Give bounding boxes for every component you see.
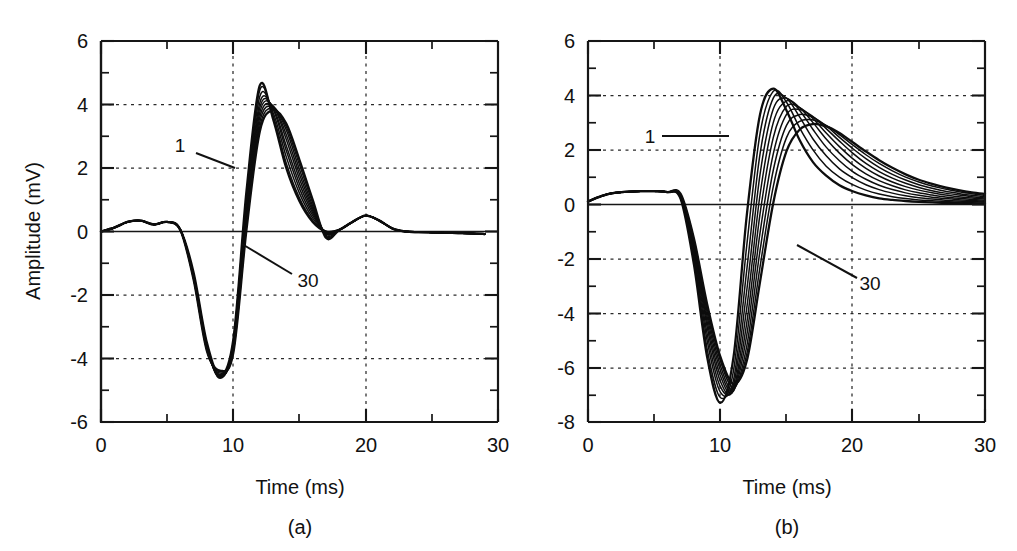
panel-a-trace-group: [101, 83, 485, 378]
panel-a-xlabel: Time (ms): [255, 476, 344, 498]
panel-a-ytick-neg2: -2: [70, 284, 88, 306]
waveform-trace: [588, 114, 985, 390]
panel-a-xtick-10: 10: [222, 434, 244, 456]
figure-container: 6 4 2 0 -2 -4 -6 0 10 20 30 Time (ms) Am…: [0, 0, 1017, 551]
panel-b-ytick-6: 6: [564, 30, 575, 52]
waveform-trace: [588, 124, 985, 384]
panel-b-ytick-neg2: -2: [557, 248, 575, 270]
waveform-trace: [101, 91, 485, 378]
panel-a-ytick-neg4: -4: [70, 348, 88, 370]
panel-b-label-last: 30: [859, 273, 880, 294]
panel-b-xtick-30: 30: [974, 434, 996, 456]
panel-b-xtick-10: 10: [709, 434, 731, 456]
panel-a-leader-first: [196, 153, 235, 168]
panel-a-xtick-20: 20: [355, 434, 377, 456]
panel-b-xlabel: Time (ms): [742, 476, 831, 498]
panel-b-ytick-2: 2: [564, 139, 575, 161]
panel-a-caption: (a): [288, 516, 312, 538]
panel-a-ytick-neg6: -6: [70, 411, 88, 433]
panel-b-caption: (b): [775, 516, 799, 538]
panel-a: 6 4 2 0 -2 -4 -6 0 10 20 30 Time (ms) Am…: [0, 0, 510, 551]
panel-b-xtick-20: 20: [841, 434, 863, 456]
panel-a-label-last: 30: [297, 270, 318, 291]
panel-a-ytick-4: 4: [77, 94, 88, 116]
panel-b-ytick-0: 0: [564, 194, 575, 216]
panel-a-xtick-30: 30: [487, 434, 509, 456]
panel-b-xtick-0: 0: [582, 434, 593, 456]
panel-a-ytick-0: 0: [77, 221, 88, 243]
waveform-trace: [588, 119, 985, 387]
waveform-trace: [101, 83, 485, 376]
panel-a-ylabel: Amplitude (mV): [22, 162, 44, 300]
panel-a-ytick-2: 2: [77, 157, 88, 179]
panel-b-ytick-neg8: -8: [557, 411, 575, 433]
panel-b-leader-last: [797, 245, 857, 278]
panel-b: 6 4 2 0 -2 -4 -6 -8 0 10 20 30 Time (ms)…: [507, 0, 1017, 551]
panel-b-ytick-neg4: -4: [557, 303, 575, 325]
panel-a-xtick-0: 0: [95, 434, 106, 456]
panel-a-ytick-6: 6: [77, 30, 88, 52]
panel-a-plot: 6 4 2 0 -2 -4 -6 0 10 20 30 Time (ms) Am…: [0, 0, 510, 551]
waveform-trace: [588, 104, 985, 394]
panel-a-label-first: 1: [175, 135, 186, 156]
panel-b-plot: 6 4 2 0 -2 -4 -6 -8 0 10 20 30 Time (ms)…: [507, 0, 1017, 551]
panel-a-leader-last: [242, 244, 292, 274]
panel-b-label-first: 1: [645, 126, 656, 147]
panel-b-ytick-neg6: -6: [557, 357, 575, 379]
panel-b-ytick-4: 4: [564, 85, 575, 107]
